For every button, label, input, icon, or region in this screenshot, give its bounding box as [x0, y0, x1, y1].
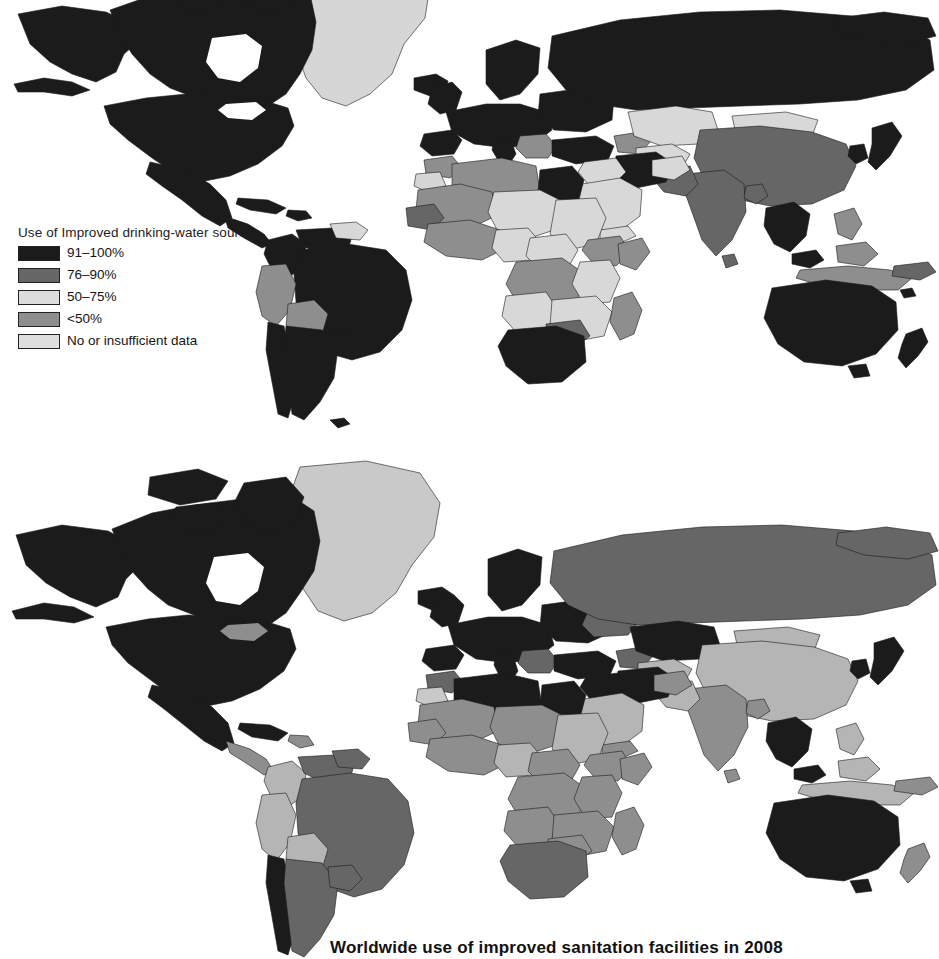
- legend-label: 76–90%: [67, 268, 117, 282]
- legend-swatch: [18, 246, 60, 261]
- map-panel-drinking-water: Use of Improved drinking-water sources 9…: [0, 0, 939, 433]
- legend-label: 50–75%: [67, 290, 117, 304]
- legend-row: 50–75%: [18, 287, 260, 307]
- legend-row: 91–100%: [18, 243, 260, 263]
- legend-label: 91–100%: [67, 246, 124, 260]
- legend-label: No or insufficient data: [67, 334, 197, 348]
- legend-swatch: [18, 290, 60, 305]
- world-map-drinking-water: [0, 0, 939, 433]
- map-panel-sanitation: Use of improved sanitation 91–100% 76–90…: [0, 455, 939, 959]
- legend-row: 76–90%: [18, 265, 260, 285]
- legend-title: Use of Improved drinking-water sources: [18, 225, 260, 240]
- legend-swatch: [18, 334, 60, 349]
- legend-swatch: [18, 312, 60, 327]
- legend-swatch: [18, 268, 60, 283]
- legend-row: No or insufficient data: [18, 331, 260, 351]
- figure-caption: Worldwide use of improved sanitation fac…: [330, 938, 783, 958]
- figure-root: Use of Improved drinking-water sources 9…: [0, 0, 939, 959]
- world-map-sanitation: [0, 455, 939, 959]
- legend-row: <50%: [18, 309, 260, 329]
- legend-drinking-water: Use of Improved drinking-water sources 9…: [18, 225, 260, 353]
- legend-label: <50%: [67, 312, 102, 326]
